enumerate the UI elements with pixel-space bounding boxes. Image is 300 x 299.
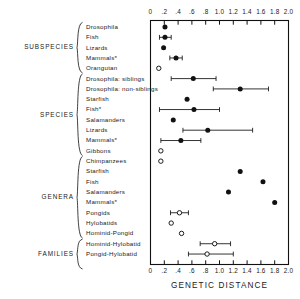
data-row [238,169,243,174]
data-row [159,35,171,40]
category-label: Pongid-Hylobatid [86,251,137,257]
group-label-genera: GENERA [0,194,74,200]
category-label: Starfish [86,96,109,102]
data-point-open [169,221,173,225]
data-point-open [159,159,163,163]
data-row [185,97,190,102]
category-label: Gibbons [86,148,111,154]
category-label: Drosophila: non-siblings [86,86,158,92]
group-label-subspecies: SUBSPECIES [0,44,74,50]
data-point-open [157,66,161,70]
data-point-open [212,242,216,246]
category-label: Lizards [86,45,108,51]
data-row [162,25,167,30]
group-bracket [77,22,83,72]
category-label: Salamanders [86,189,125,195]
data-point-filled [260,179,265,184]
data-point-filled [205,128,210,133]
group-bracket [77,157,83,238]
category-label: Hominid-Pongid [86,230,134,236]
group-bracket [77,239,83,269]
data-row [183,128,253,133]
data-point-open [205,252,209,256]
x-tick-label-bottom: 2.0 [279,268,299,274]
category-label: Pongids [86,210,110,216]
category-label: Fish [86,179,99,185]
data-point-filled [238,169,243,174]
data-row [161,138,201,143]
category-label: Mammals* [86,199,117,205]
data-row [171,210,189,215]
group-label-families: FAMILIES [0,251,74,257]
data-point-filled [162,35,167,40]
plot-frame [151,21,289,265]
category-label: Hominid-Hylobatid [86,241,141,247]
category-label: Lizards [86,127,108,133]
category-label: Mammals* [86,137,117,143]
data-row [260,179,265,184]
data-row [170,55,182,60]
category-label: Hylobatids [86,220,117,226]
data-row [169,221,173,225]
data-row [159,159,163,163]
data-point-filled [171,117,176,122]
data-point-filled [191,76,196,81]
data-point-open [159,149,163,153]
category-label: Starfish [86,168,109,174]
group-bracket [77,74,83,155]
data-row [159,149,163,153]
group-label-species: SPECIES [0,112,74,118]
data-row [159,107,219,112]
category-label: Chimpanzees [86,158,127,164]
category-label: Mammals* [86,55,117,61]
data-row [226,190,231,195]
data-point-filled [226,190,231,195]
data-row [161,45,166,50]
data-row [188,252,233,257]
category-label: Fish* [86,106,101,112]
data-point-open [179,231,183,235]
data-point-filled [238,86,243,91]
data-point-filled [162,25,167,30]
data-row [171,76,216,81]
category-label: Drosophila [86,24,118,30]
data-point-filled [185,97,190,102]
data-row [171,117,176,122]
data-point-filled [191,107,196,112]
data-point-filled [178,138,183,143]
data-row [157,66,161,70]
data-point-filled [161,45,166,50]
x-axis-title: GENETIC DISTANCE [151,282,289,290]
category-label: Fish [86,34,99,40]
category-label: Orangutan [86,65,118,71]
category-label: Drosophila: siblings [86,76,145,82]
data-row [213,86,268,91]
data-point-filled [272,200,277,205]
genetic-distance-figure: DrosophilaFishLizardsMammals*OrangutanDr… [0,0,300,299]
x-tick-label-top: 2.0 [279,9,299,15]
data-point-filled [174,55,179,60]
data-row [272,200,277,205]
data-row [200,241,230,246]
category-label: Salamanders [86,117,125,123]
data-row [179,231,183,235]
data-point-open [177,211,181,215]
